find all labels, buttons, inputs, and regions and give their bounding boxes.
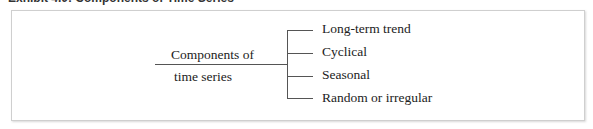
branch-label-random: Random or irregular xyxy=(322,90,432,106)
branch-line-4 xyxy=(287,98,313,99)
exhibit-title: Exhibit 4.0: Components of Time Series xyxy=(8,0,234,5)
trunk-line xyxy=(155,64,288,65)
diagram-frame xyxy=(11,10,585,121)
branch-label-long-term-trend: Long-term trend xyxy=(322,21,411,37)
root-label-line1: Components of xyxy=(171,47,254,63)
vertical-connector xyxy=(287,30,288,99)
branch-label-cyclical: Cyclical xyxy=(322,44,367,60)
branch-line-2 xyxy=(287,53,313,54)
branch-line-1 xyxy=(287,30,313,31)
branch-label-seasonal: Seasonal xyxy=(322,67,370,83)
branch-line-3 xyxy=(287,76,313,77)
root-label-line2: time series xyxy=(174,69,232,85)
